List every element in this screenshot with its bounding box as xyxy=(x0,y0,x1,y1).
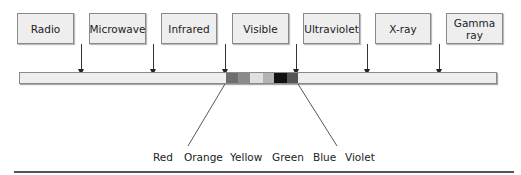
color-label-red: Red xyxy=(153,151,173,163)
color-label-orange: Orange xyxy=(184,151,223,163)
color-label-green: Green xyxy=(272,151,304,163)
visible-expansion-lines xyxy=(0,0,521,175)
bottom-divider xyxy=(14,171,514,173)
color-label-blue: Blue xyxy=(313,151,336,163)
color-label-yellow: Yellow xyxy=(230,151,262,163)
color-label-violet: Violet xyxy=(345,151,375,163)
